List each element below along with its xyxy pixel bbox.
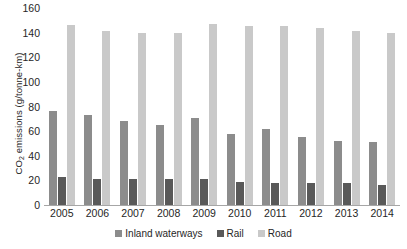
bar-road-2008[interactable] — [174, 33, 182, 205]
bar-inland-waterways-2008[interactable] — [156, 125, 164, 205]
legend-entry-rail[interactable]: Rail — [217, 228, 244, 239]
y-axis-tick-label: 40 — [0, 151, 40, 162]
legend-label: Rail — [227, 228, 244, 239]
legend-label: Inland waterways — [125, 228, 202, 239]
bar-group-2014 — [364, 8, 400, 205]
bar-road-2011[interactable] — [280, 26, 288, 205]
bar-group-2011 — [258, 8, 294, 205]
x-axis-tick-label: 2014 — [364, 207, 400, 219]
legend-entry-inland-waterways[interactable]: Inland waterways — [115, 228, 202, 239]
x-axis-tick-label: 2011 — [258, 207, 294, 219]
co2-emissions-bar-chart: CO2 emissions (g/tonne-km) 0204060801001… — [0, 0, 407, 249]
legend-swatch-icon — [217, 230, 224, 237]
bar-road-2009[interactable] — [209, 24, 217, 205]
bar-inland-waterways-2006[interactable] — [84, 115, 92, 205]
bar-inland-waterways-2007[interactable] — [120, 121, 128, 205]
legend-swatch-icon — [115, 230, 122, 237]
bar-rail-2007[interactable] — [129, 179, 137, 205]
x-axis-tick-labels: 2005200620072008200920102011201220132014 — [44, 207, 400, 219]
legend-label: Road — [268, 228, 292, 239]
x-axis-tick-label: 2006 — [80, 207, 116, 219]
bar-rail-2009[interactable] — [200, 179, 208, 205]
bar-road-2005[interactable] — [67, 25, 75, 205]
x-axis-tick-label: 2009 — [186, 207, 222, 219]
y-axis-tick-label: 120 — [0, 52, 40, 63]
y-axis-tick-label: 80 — [0, 101, 40, 112]
bar-inland-waterways-2013[interactable] — [334, 141, 342, 205]
bar-rail-2013[interactable] — [343, 183, 351, 205]
bar-road-2012[interactable] — [316, 28, 324, 205]
y-axis-tick-label: 140 — [0, 27, 40, 38]
bar-road-2010[interactable] — [245, 26, 253, 205]
bar-inland-waterways-2012[interactable] — [298, 137, 306, 205]
x-axis-tick-label: 2005 — [44, 207, 80, 219]
x-axis-tick-label: 2013 — [329, 207, 365, 219]
x-axis-tick-label: 2007 — [115, 207, 151, 219]
bar-inland-waterways-2009[interactable] — [191, 118, 199, 205]
y-axis-tick-label: 20 — [0, 175, 40, 186]
x-axis-tick-label: 2008 — [151, 207, 187, 219]
bar-rail-2008[interactable] — [165, 179, 173, 205]
bar-road-2006[interactable] — [102, 31, 110, 205]
legend-swatch-icon — [258, 230, 265, 237]
bar-rail-2011[interactable] — [271, 183, 279, 205]
y-axis-tick-label: 0 — [0, 200, 40, 211]
bar-road-2013[interactable] — [352, 31, 360, 205]
bar-inland-waterways-2014[interactable] — [369, 142, 377, 205]
y-axis-tick-label: 100 — [0, 77, 40, 88]
chart-legend: Inland waterwaysRailRoad — [0, 228, 407, 239]
legend-entry-road[interactable]: Road — [258, 228, 292, 239]
bar-group-2006 — [80, 8, 116, 205]
bar-inland-waterways-2005[interactable] — [49, 111, 57, 205]
x-axis-tick-label: 2012 — [293, 207, 329, 219]
y-axis-tick-label: 160 — [0, 3, 40, 14]
bar-rail-2012[interactable] — [307, 183, 315, 205]
x-axis-tick-label: 2010 — [222, 207, 258, 219]
bar-rail-2005[interactable] — [58, 177, 66, 205]
bar-road-2014[interactable] — [387, 33, 395, 205]
y-axis-tick-label: 60 — [0, 126, 40, 137]
bar-group-2013 — [329, 8, 365, 205]
bar-group-2005 — [44, 8, 80, 205]
bar-group-2012 — [293, 8, 329, 205]
y-axis-tick-labels: 020406080100120140160 — [0, 0, 40, 249]
bar-groups — [44, 8, 400, 205]
bar-group-2010 — [222, 8, 258, 205]
bar-group-2008 — [151, 8, 187, 205]
bar-inland-waterways-2010[interactable] — [227, 134, 235, 205]
bar-group-2009 — [186, 8, 222, 205]
bar-rail-2014[interactable] — [378, 185, 386, 205]
bar-rail-2006[interactable] — [93, 179, 101, 205]
bar-inland-waterways-2011[interactable] — [262, 129, 270, 205]
bar-road-2007[interactable] — [138, 33, 146, 205]
bar-group-2007 — [115, 8, 151, 205]
bar-rail-2010[interactable] — [236, 182, 244, 205]
x-axis-line — [44, 205, 400, 206]
